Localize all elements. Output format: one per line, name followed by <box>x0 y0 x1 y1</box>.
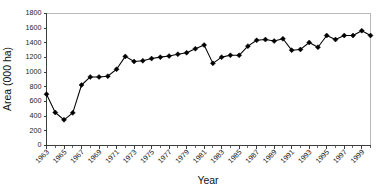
data-point-marker <box>193 46 198 51</box>
data-point-marker <box>350 33 355 38</box>
data-point-marker <box>228 53 233 58</box>
x-tick-label: 1997 <box>331 148 349 166</box>
x-tick-label: 1965 <box>51 148 69 166</box>
plot-frame <box>47 14 371 146</box>
x-tick-label: 1979 <box>173 148 191 166</box>
y-axis-title: Area (000 ha) <box>1 47 13 111</box>
data-point-marker <box>44 92 49 97</box>
x-tick-label: 1971 <box>103 148 121 166</box>
y-tick-label: 200 <box>30 126 42 135</box>
y-tick-labels: 020040060080010001200140016001800 <box>26 8 42 149</box>
data-point-marker <box>263 37 268 42</box>
x-tick-label: 1989 <box>261 148 279 166</box>
x-axis-title: Year <box>197 174 219 186</box>
x-tick-label: 1995 <box>313 148 331 166</box>
data-point-markers <box>44 28 373 122</box>
y-tick-label: 800 <box>30 82 42 91</box>
y-tick-label: 1600 <box>26 23 42 32</box>
data-point-marker <box>342 33 347 38</box>
x-tick-label: 1975 <box>138 148 156 166</box>
data-point-marker <box>158 55 163 60</box>
data-point-marker <box>272 39 277 44</box>
x-tick-label: 1983 <box>208 148 226 166</box>
y-tick-label: 1800 <box>26 8 42 17</box>
data-point-marker <box>184 50 189 55</box>
x-tick-label: 1993 <box>296 148 314 166</box>
series-line-area <box>47 31 371 120</box>
data-series-area <box>47 31 371 120</box>
x-tick-label: 1977 <box>156 148 174 166</box>
data-point-marker <box>202 43 207 48</box>
plot-axes <box>47 14 371 146</box>
plot-border-top-right <box>47 14 371 146</box>
y-tick-label: 1000 <box>26 67 42 76</box>
line-chart: 020040060080010001200140016001800 196319… <box>0 0 388 188</box>
x-tick-label: 1999 <box>348 148 366 166</box>
x-tick-label: 1981 <box>191 148 209 166</box>
x-tick-labels: 1963196519671969197119731975197719791981… <box>33 148 366 166</box>
x-tick-label: 1985 <box>226 148 244 166</box>
y-tick-label: 0 <box>38 140 42 149</box>
data-point-marker <box>149 56 154 61</box>
y-tick-label: 1400 <box>26 38 42 47</box>
y-tick-label: 400 <box>30 111 42 120</box>
y-tick-label: 1200 <box>26 52 42 61</box>
x-tick-label: 1969 <box>86 148 104 166</box>
y-tick-label: 600 <box>30 96 42 105</box>
data-point-marker <box>175 52 180 57</box>
data-point-marker <box>97 74 102 79</box>
x-tick-label: 1991 <box>278 148 296 166</box>
x-tick-label: 1967 <box>68 148 86 166</box>
data-point-marker <box>167 54 172 59</box>
data-point-marker <box>140 58 145 63</box>
data-point-marker <box>132 59 137 64</box>
data-point-marker <box>333 37 338 42</box>
x-tick-label: 1973 <box>121 148 139 166</box>
data-point-marker <box>359 28 364 33</box>
data-point-marker <box>368 33 373 38</box>
x-tick-label: 1963 <box>33 148 51 166</box>
chart-figure: 020040060080010001200140016001800 196319… <box>0 0 388 188</box>
x-tick-label: 1987 <box>243 148 261 166</box>
